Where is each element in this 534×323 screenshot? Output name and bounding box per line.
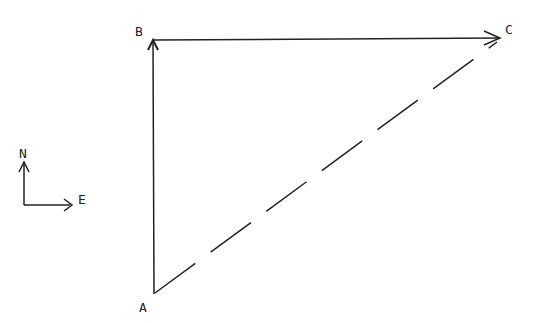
vector-diagram: A B C N E (0, 0, 534, 323)
label-a: A (139, 300, 147, 315)
compass-icon (19, 162, 72, 211)
resultant-a-to-c-dashed (155, 42, 497, 293)
label-b: B (135, 24, 143, 39)
label-c: C (505, 22, 513, 37)
compass-north-label: N (19, 146, 27, 161)
diagram-svg: A B C N E (0, 0, 534, 323)
vector-b-to-c (153, 31, 500, 45)
compass-east-label: E (78, 192, 86, 207)
vector-a-to-b (148, 40, 158, 294)
